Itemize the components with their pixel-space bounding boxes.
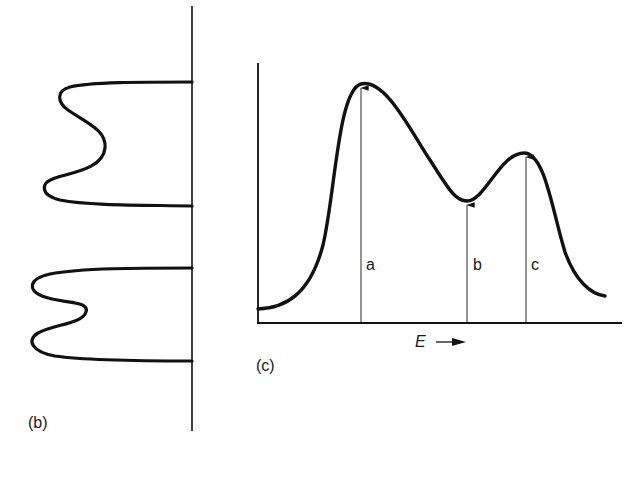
arrow-label-b: b xyxy=(473,257,482,273)
diagram-canvas xyxy=(0,0,640,477)
panel-c xyxy=(257,63,622,346)
panel-label-c: (c) xyxy=(256,358,275,374)
spectrum-curve xyxy=(258,84,605,309)
panel-b xyxy=(32,6,192,431)
energy-arrow-head xyxy=(452,338,466,346)
lower-band-curve xyxy=(32,268,192,361)
arrow-label-a: a xyxy=(366,257,375,273)
upper-band-curve xyxy=(44,82,192,206)
arrow-label-c: c xyxy=(531,257,539,273)
x-axis-label: E xyxy=(415,334,426,350)
panel-label-b: (b) xyxy=(28,415,48,431)
